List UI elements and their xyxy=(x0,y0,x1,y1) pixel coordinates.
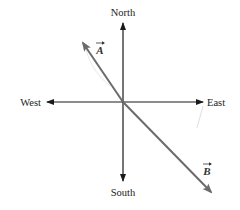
vector-diagram: North South West East A B xyxy=(0,0,240,210)
vector-a-label-group: A xyxy=(95,41,105,56)
west-label: West xyxy=(20,97,41,108)
leader-line xyxy=(197,106,203,128)
north-label: North xyxy=(111,7,136,18)
vector-b-arrow xyxy=(123,102,211,192)
vector-b-label-group: B xyxy=(202,162,212,177)
south-label: South xyxy=(111,187,136,198)
vector-b-label: B xyxy=(202,165,210,177)
vector-a-label: A xyxy=(95,44,103,56)
compass-axes xyxy=(47,23,203,181)
east-label: East xyxy=(207,97,225,108)
